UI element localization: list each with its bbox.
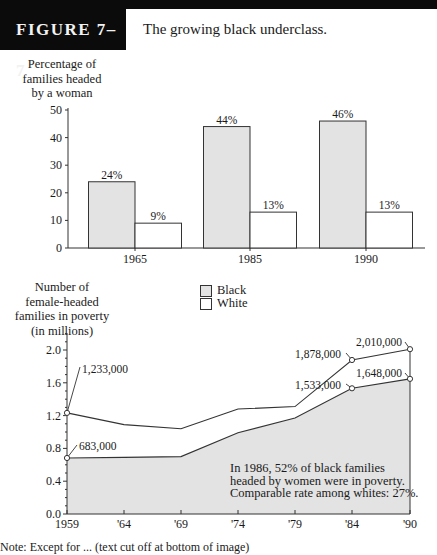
x-tick-label: '64 (117, 517, 131, 531)
line-chart: 0.00.40.81.21.62.01959'64'69'74'79'84'90… (46, 333, 417, 531)
bar-value-label: 44% (216, 114, 238, 126)
y-tick-label: 0.8 (46, 441, 61, 455)
annotation-note: In 1986, 52% of black families headed by… (230, 462, 419, 500)
data-point-label: 1,233,000 (82, 363, 128, 376)
note-line: In 1986, 52% of black families (230, 462, 419, 475)
x-tick-label: 1985 (238, 252, 262, 266)
y-tick-label: 2.0 (46, 343, 61, 357)
data-point-label: 1,878,000 (295, 348, 341, 361)
bar-chart: 0102030405024%9%196544%13%198546%13%1990 (50, 103, 425, 266)
bar-white (135, 223, 182, 248)
x-tick-label: '79 (288, 517, 302, 531)
bar-value-label: 9% (151, 210, 167, 222)
bar-value-label: 13% (379, 199, 401, 211)
bar-white (250, 212, 297, 248)
y-tick-label: 1.6 (46, 376, 61, 390)
bar-black (204, 127, 251, 248)
data-point-marker (349, 357, 354, 362)
data-point-marker (407, 376, 412, 381)
y-tick-label: 30 (50, 158, 62, 172)
x-tick-label: '90 (403, 517, 417, 531)
x-tick-label: '74 (231, 517, 245, 531)
y-tick-label: 20 (50, 186, 62, 200)
annotation-leader (67, 367, 80, 413)
bar-black (89, 182, 136, 248)
x-tick-label: 1990 (354, 252, 378, 266)
data-point-marker (64, 410, 69, 415)
x-tick-label: 1959 (55, 517, 79, 531)
y-tick-label: 50 (50, 103, 62, 117)
bar-value-label: 13% (263, 199, 285, 211)
data-point-label: 1,648,000 (356, 367, 402, 380)
data-point-marker (349, 386, 354, 391)
x-tick-label: '84 (345, 517, 359, 531)
figure-caption-clipped: Note: Except for ... (text cut off at bo… (0, 540, 249, 555)
y-tick-label: 10 (50, 213, 62, 227)
y-tick-label: 1.2 (46, 409, 61, 423)
data-point-marker (407, 347, 412, 352)
y-tick-label: 40 (50, 131, 62, 145)
x-tick-label: 1965 (123, 252, 147, 266)
bar-value-label: 46% (332, 108, 354, 120)
note-line: Comparable rate among whites: 27%. (230, 487, 419, 500)
y-tick-label: 0 (56, 241, 62, 255)
x-tick-label: '69 (174, 517, 188, 531)
data-point-label: 683,000 (79, 440, 117, 453)
data-point-marker (64, 455, 69, 460)
bar-value-label: 24% (101, 169, 123, 181)
bar-white (366, 212, 413, 248)
data-point-label: 1,533,000 (295, 379, 341, 392)
bar-black (320, 121, 367, 248)
data-point-label: 2,010,000 (356, 336, 402, 349)
y-tick-label: 0.4 (46, 474, 61, 488)
